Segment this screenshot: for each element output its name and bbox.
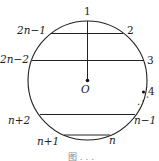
label-2n-2: 2n−2	[0, 53, 29, 65]
diagram-canvas: O 1 2 3 4 ⋰ n−1 n n+1 n+2 2n−2 2n−1 图 . …	[0, 0, 159, 161]
center-point	[86, 79, 90, 83]
label-1: 1	[84, 5, 91, 17]
figure-caption: 图 . . .	[68, 152, 94, 161]
label-n: n	[109, 134, 116, 146]
label-4: 4	[148, 85, 155, 97]
label-n-1: n−1	[134, 114, 156, 126]
ellipsis: ⋰	[137, 94, 149, 106]
center-label: O	[81, 83, 90, 95]
label-2: 2	[127, 24, 134, 36]
circle-diagram: O 1 2 3 4 ⋰ n−1 n n+1 n+2 2n−2 2n−1 图 . …	[0, 0, 159, 161]
label-3: 3	[147, 54, 154, 66]
label-n+2: n+2	[8, 114, 31, 126]
label-n+1: n+1	[37, 135, 59, 147]
label-2n-1: 2n−1	[16, 24, 46, 36]
